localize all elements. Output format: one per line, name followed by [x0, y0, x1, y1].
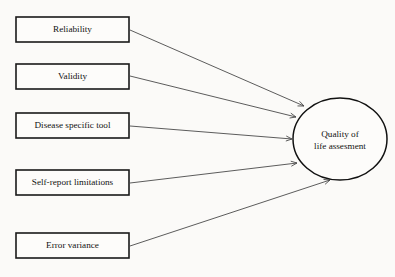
outcome-label-line-2: life assesment	[314, 141, 366, 151]
node-box-error-variance[interactable]: Error variance	[16, 233, 129, 258]
node-box-label: Reliability	[53, 24, 92, 34]
link-line	[130, 30, 304, 106]
link-self-report-limitations-to-outcome	[130, 161, 297, 183]
node-box-label: Self-report limitations	[32, 177, 114, 187]
node-box-disease-specific-tool[interactable]: Disease specific tool	[16, 113, 129, 138]
link-line	[130, 126, 292, 139]
link-error-variance-to-outcome	[130, 179, 330, 246]
node-box-label: Validity	[58, 71, 87, 81]
diagram-canvas: ReliabilityValidityDisease specific tool…	[0, 0, 395, 277]
boxes-layer: ReliabilityValidityDisease specific tool…	[16, 17, 129, 258]
node-box-reliability[interactable]: Reliability	[16, 17, 129, 42]
outcome-ellipse-outline	[293, 98, 387, 180]
link-line	[130, 163, 297, 183]
diagram-svg: ReliabilityValidityDisease specific tool…	[0, 0, 395, 277]
node-box-validity[interactable]: Validity	[16, 64, 129, 89]
node-box-label: Error variance	[46, 240, 99, 250]
link-validity-to-outcome	[130, 76, 296, 118]
link-disease-specific-tool-to-outcome	[130, 126, 292, 141]
link-reliability-to-outcome	[130, 30, 304, 106]
outcome-node-group[interactable]: Quality oflife assesment	[293, 98, 387, 180]
node-box-self-report-limitations[interactable]: Self-report limitations	[16, 170, 129, 195]
link-line	[130, 76, 296, 117]
node-box-label: Disease specific tool	[34, 120, 110, 130]
outcome-label-line-1: Quality of	[321, 129, 359, 139]
link-line	[130, 180, 330, 246]
